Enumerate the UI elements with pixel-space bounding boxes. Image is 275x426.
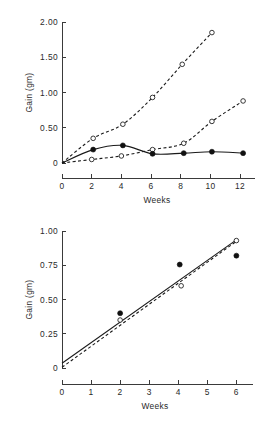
x-tick-label: 0 (59, 387, 64, 397)
y-tick-label: 1.50 (40, 52, 58, 62)
x-tick-label: 10 (205, 181, 215, 191)
data-point-open-points (234, 238, 239, 243)
y-axis-title: Gain (gm) (24, 73, 34, 113)
chart-panel-top: 00.501.001.502.00024681012WeeksGain (gm) (0, 0, 275, 213)
data-point-shallow-dashed-open (119, 154, 124, 159)
data-point-open-points (118, 318, 123, 323)
y-tick-label: 0.50 (40, 295, 58, 305)
data-point-shallow-dashed-open (210, 119, 215, 124)
y-tick-label: 1.00 (40, 226, 58, 236)
data-point-flat-solid-filled (150, 151, 155, 156)
data-point-open-points (179, 284, 184, 289)
data-point-flat-solid-filled (120, 143, 125, 148)
x-tick-label: 0 (59, 181, 64, 191)
y-tick-label: 0.50 (40, 123, 58, 133)
data-point-steep-dashed-open (91, 136, 96, 141)
x-tick-label: 6 (234, 387, 239, 397)
data-point-steep-dashed-open (150, 95, 155, 100)
figure-container: 00.501.001.502.00024681012WeeksGain (gm)… (0, 0, 275, 426)
x-tick-label: 12 (235, 181, 245, 191)
series-line-steep-dashed-open (62, 33, 212, 163)
data-point-filled-points (234, 253, 239, 258)
data-point-flat-solid-filled (209, 149, 214, 154)
y-tick-label: 0 (53, 363, 58, 373)
x-tick-label: 5 (205, 387, 210, 397)
x-tick-label: 8 (178, 181, 183, 191)
y-tick-label: 0.25 (40, 329, 58, 339)
data-point-flat-solid-filled (241, 151, 246, 156)
data-point-flat-solid-filled (181, 151, 186, 156)
x-tick-label: 1 (89, 387, 94, 397)
data-point-shallow-dashed-open (181, 141, 186, 146)
chart-panel-bottom: 00.250.500.751.000123456WeeksGain (gm) (0, 213, 275, 426)
x-tick-label: 2 (89, 181, 94, 191)
y-tick-label: 0.75 (40, 260, 58, 270)
x-tick-label: 4 (119, 181, 124, 191)
y-tick-label: 0 (53, 158, 58, 168)
data-point-steep-dashed-open (180, 62, 185, 67)
x-tick-label: 3 (147, 387, 152, 397)
data-point-steep-dashed-open (121, 122, 126, 127)
y-tick-label: 2.00 (40, 17, 58, 27)
x-axis-title: Weeks (144, 195, 171, 205)
chart-bottom-svg: 00.250.500.751.000123456WeeksGain (gm) (0, 213, 275, 426)
data-point-flat-solid-filled (91, 147, 96, 152)
data-point-filled-points (118, 311, 123, 316)
series-line-regression-dashed (62, 241, 236, 367)
data-point-filled-points (177, 262, 182, 267)
x-axis-title: Weeks (142, 401, 169, 411)
chart-top-svg: 00.501.001.502.00024681012WeeksGain (gm) (0, 0, 275, 213)
x-tick-label: 4 (176, 387, 181, 397)
y-axis-title: Gain (gm) (24, 280, 34, 320)
data-point-shallow-dashed-open (241, 99, 246, 104)
x-tick-label: 6 (149, 181, 154, 191)
y-tick-label: 1.00 (40, 88, 58, 98)
data-point-steep-dashed-open (210, 30, 215, 35)
x-tick-label: 2 (118, 387, 123, 397)
series-line-regression-solid (62, 240, 236, 363)
data-point-shallow-dashed-open (89, 157, 94, 162)
